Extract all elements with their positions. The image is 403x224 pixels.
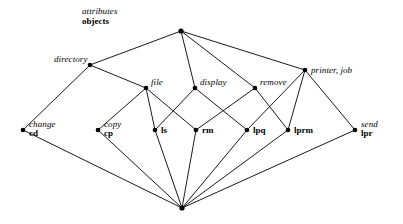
node-attribute-label: file <box>151 78 163 87</box>
node-label: directory <box>54 55 88 64</box>
node-object-label: cp <box>104 129 121 138</box>
lattice-diagram: attributes objects directoryprinter, job… <box>0 0 403 224</box>
lattice-edge <box>196 88 255 130</box>
node-object-label: lpq <box>253 126 266 135</box>
lattice-edge <box>182 130 196 208</box>
lattice-edge <box>305 70 355 130</box>
legend: attributes objects <box>82 6 118 27</box>
node-attribute-label: directory <box>54 55 88 64</box>
lattice-node[interactable] <box>21 128 26 133</box>
lattice-node[interactable] <box>153 128 158 133</box>
node-label: changecd <box>29 120 56 139</box>
node-label: file <box>151 78 163 87</box>
node-label: printer, job <box>311 66 352 75</box>
lattice-edge <box>90 65 146 88</box>
node-label: copycp <box>104 120 121 139</box>
lattice-node[interactable] <box>286 128 291 133</box>
node-label: rm <box>202 126 214 135</box>
lattice-node[interactable] <box>303 68 308 73</box>
node-label: sendlpr <box>361 120 378 139</box>
node-label: ls <box>161 126 167 135</box>
legend-objects-label: objects <box>82 16 118 26</box>
lattice-edge <box>182 130 247 208</box>
lattice-graph-canvas <box>0 0 403 224</box>
lattice-edge <box>98 130 182 208</box>
node-label: display <box>200 78 227 87</box>
lattice-node[interactable] <box>194 128 199 133</box>
lattice-edge <box>182 130 288 208</box>
lattice-edge <box>255 88 288 130</box>
lattice-node[interactable] <box>144 86 149 91</box>
node-object-label: rm <box>202 126 214 135</box>
lattice-node[interactable] <box>178 28 183 33</box>
node-label: remove <box>260 78 287 87</box>
lattice-edge <box>181 31 305 70</box>
lattice-edge <box>195 88 247 130</box>
node-attribute-label: display <box>200 78 227 87</box>
node-object-label: ls <box>161 126 167 135</box>
node-object-label: lpr <box>361 129 378 138</box>
node-attribute-label: printer, job <box>311 66 352 75</box>
lattice-node[interactable] <box>245 128 250 133</box>
lattice-node[interactable] <box>88 63 93 68</box>
legend-attributes-label: attributes <box>82 6 118 16</box>
lattice-node[interactable] <box>253 86 258 91</box>
lattice-node[interactable] <box>96 128 101 133</box>
node-object-label: cd <box>29 129 56 138</box>
lattice-edge <box>23 130 182 208</box>
lattice-edge <box>181 31 195 88</box>
lattice-node[interactable] <box>193 86 198 91</box>
node-attribute-label: remove <box>260 78 287 87</box>
node-label: lpq <box>253 126 266 135</box>
lattice-node[interactable] <box>179 205 184 210</box>
node-label: lprm <box>294 126 313 135</box>
lattice-edge <box>90 31 181 65</box>
lattice-edge <box>182 130 355 208</box>
node-object-label: lprm <box>294 126 313 135</box>
lattice-node[interactable] <box>353 128 358 133</box>
